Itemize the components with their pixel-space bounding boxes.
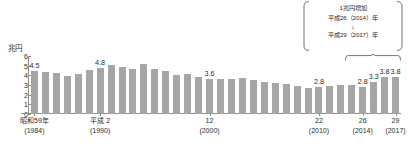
bar-value-label: 4.5 [25,62,43,69]
bar [294,86,301,114]
x-tick-label: 昭和59年(1984) [4,116,64,136]
x-tick-mark [396,113,397,116]
x-tick-year: (1984) [4,126,64,136]
bar [42,72,49,114]
bar [228,79,235,114]
x-tick-era: 12 [206,117,214,124]
x-tick-mark [363,113,364,116]
bar [151,69,158,114]
bar [337,85,344,114]
callout-text: 1兆円増加 平成26（2014）年 ↓ 平成29（2017）年 [310,3,396,40]
bar [75,74,82,114]
x-tick-era: 昭和59年 [20,117,49,124]
callout-right-brace-icon [396,1,403,51]
x-tick-era: 平成 2 [90,117,110,124]
x-tick-label: 平成 2(1990) [70,116,130,136]
bar-value-label: 3.6 [201,70,219,77]
x-axis-labels: 昭和59年(1984)平成 2(1990)12(2000)22(2010)26(… [0,116,408,146]
chart-root: 1兆円増加 平成26（2014）年 ↓ 平成29（2017）年 兆円 65432… [0,0,408,148]
x-tick-label: 29(2017) [366,116,408,136]
bar [348,85,355,114]
y-axis-unit-label: 兆円 [8,42,22,53]
bar [261,82,268,114]
x-tick-year: (1990) [70,126,130,136]
bar [305,88,312,114]
bar [53,73,60,114]
callout-left-brace-icon [303,1,310,51]
callout-line-2: 平成26（2014）年 [310,13,396,23]
bar [272,83,279,114]
bar [31,71,38,115]
bar [359,87,366,114]
x-tick-mark [210,113,211,116]
increase-callout: 1兆円増加 平成26（2014）年 ↓ 平成29（2017）年 [303,1,403,51]
plot-area: 4.54.83.62.82.83.33.83.8 [29,56,401,114]
bar [119,67,126,114]
y-tick-mark [28,114,31,115]
bar [206,79,213,114]
bar [326,86,333,114]
bar [239,78,246,114]
bar [129,69,136,114]
x-tick-year: (2000) [180,126,240,136]
bar [250,80,257,114]
bar-value-label: 4.8 [91,59,109,66]
x-tick-label: 12(2000) [180,116,240,136]
bar [64,76,71,114]
bar-value-label: 2.8 [310,78,328,85]
bar [140,64,147,114]
bar [392,77,399,114]
x-tick-mark [100,113,101,116]
bar [108,65,115,114]
bar [162,71,169,114]
bar [195,77,202,114]
bar [184,74,191,114]
x-tick-era: 29 [392,117,400,124]
x-tick-mark [34,113,35,116]
bar [315,87,322,114]
bar [86,70,93,114]
bar-series [29,56,401,114]
bar [97,68,104,114]
bar [381,77,388,114]
x-tick-mark [319,113,320,116]
x-tick-year: (2017) [366,126,408,136]
callout-line-3: 平成29（2017）年 [310,30,396,40]
bar-value-label: 3.8 [387,68,405,75]
callout-line-1: 1兆円増加 [310,3,396,13]
bar [283,84,290,114]
x-tick-era: 22 [315,117,323,124]
bar [217,79,224,114]
bar [173,75,180,114]
bar [370,82,377,114]
down-arrow-icon: ↓ [310,23,396,30]
